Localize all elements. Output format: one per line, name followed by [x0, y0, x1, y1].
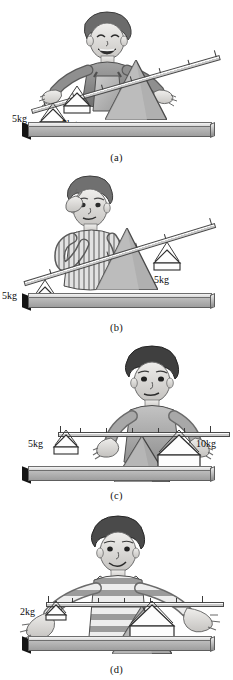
plank-front-face	[28, 298, 212, 308]
panel-caption-a: (a)	[0, 152, 233, 163]
plank-right-edge	[210, 636, 215, 652]
beam-tick	[124, 598, 125, 603]
weight-label-c-right: 10kg	[196, 438, 216, 449]
weight-c-left	[52, 433, 80, 455]
beam-tick	[176, 598, 177, 603]
panel-a: 5kg 5kg (a)	[0, 0, 233, 148]
beam-tick	[202, 596, 203, 603]
beam-tick	[164, 234, 166, 239]
panel-c-scene: 5kg 10kg	[0, 340, 233, 488]
panel-caption-d: (d)	[0, 664, 233, 675]
plank-front-face	[28, 127, 212, 137]
panel-b: 5kg 5kg (b)	[0, 170, 233, 318]
beam-tick	[80, 428, 81, 433]
beam-tick	[98, 598, 99, 603]
panel-caption-c: (c)	[0, 490, 233, 501]
weight-d-right	[128, 603, 176, 639]
ground-plank-d	[22, 636, 212, 656]
weight-label-d-left: 2kg	[20, 606, 35, 617]
plank-right-edge	[210, 466, 215, 482]
ground-plank-c	[22, 466, 212, 486]
plank-right-edge	[210, 122, 215, 138]
weight-b-right	[152, 250, 182, 272]
ground-plank-b	[22, 293, 212, 313]
weight-label-b-left: 5kg	[2, 290, 17, 301]
beam-tick	[72, 598, 73, 603]
beam-tick	[210, 426, 211, 433]
weight-a-middle	[62, 92, 92, 114]
beam-tick	[106, 428, 107, 433]
beam-tick	[132, 428, 133, 433]
panel-b-scene: 5kg 5kg	[0, 170, 233, 318]
plank-front-face	[28, 471, 212, 481]
panel-a-scene: 5kg 5kg	[0, 0, 233, 148]
panel-c: 5kg 10kg (c)	[0, 340, 233, 488]
panel-d-scene: 2kg 8kg	[0, 508, 233, 658]
weight-label-c-left: 5kg	[28, 438, 43, 449]
plank-front-face	[28, 641, 212, 651]
panel-caption-b: (b)	[0, 322, 233, 333]
weight-d-left	[44, 603, 68, 621]
plank-right-edge	[210, 293, 215, 309]
beam-tick-end	[60, 426, 61, 433]
ground-plank-a	[22, 122, 212, 142]
lever-balance-figure: 5kg 5kg (a)	[0, 0, 233, 680]
beam-tick-end	[48, 596, 49, 603]
weight-label-b-right: 5kg	[154, 274, 169, 285]
beam-bar-c	[58, 432, 230, 437]
panel-d: 2kg 8kg (d)	[0, 508, 233, 658]
